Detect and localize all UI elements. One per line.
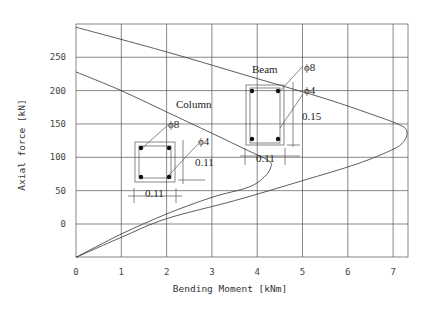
- interaction-diagram: 050100150200250 01234567 Bending Moment …: [0, 0, 427, 311]
- x-tick-label: 2: [164, 267, 169, 277]
- x-tick-label: 4: [254, 267, 259, 277]
- x-axis-label: Bending Moment [kNm]: [173, 283, 287, 294]
- column-interaction-curve: [76, 72, 271, 257]
- column-bar-large-label: ϕ8: [168, 118, 180, 130]
- x-tick-label: 0: [73, 267, 78, 277]
- y-tick-label: 150: [50, 119, 66, 129]
- beam-bar-small-label: ϕ4: [304, 84, 316, 96]
- y-tick-label: 200: [50, 86, 66, 96]
- column-height-label: 0.11: [195, 156, 214, 168]
- y-axis-label: Axial force [kN]: [16, 99, 27, 191]
- y-axis-ticks: 050100150200250: [50, 52, 66, 229]
- x-tick-label: 5: [300, 267, 305, 277]
- column-width-label: 0.11: [145, 187, 164, 199]
- beam-width-label: 0.11: [256, 152, 275, 164]
- column-label: Column: [176, 98, 212, 110]
- x-tick-label: 3: [209, 267, 214, 277]
- x-tick-label: 1: [119, 267, 124, 277]
- beam-height-label: 0.15: [302, 110, 322, 122]
- beam-interaction-curve: [76, 27, 407, 257]
- column-bar-small-label: ϕ4: [198, 135, 210, 147]
- beam-label: Beam: [252, 63, 278, 75]
- y-tick-label: 250: [50, 52, 66, 62]
- x-axis-ticks: 01234567: [73, 267, 396, 277]
- y-tick-label: 0: [61, 219, 66, 229]
- interaction-curves: [76, 27, 407, 257]
- beam-bar-large-label: ϕ8: [304, 61, 316, 73]
- x-tick-label: 7: [390, 267, 395, 277]
- y-tick-label: 100: [50, 152, 66, 162]
- plot-grid: [76, 24, 408, 257]
- x-tick-label: 6: [345, 267, 350, 277]
- y-tick-label: 50: [55, 186, 66, 196]
- beam-rebars: [250, 89, 280, 141]
- beam-section-diagram: [240, 66, 303, 165]
